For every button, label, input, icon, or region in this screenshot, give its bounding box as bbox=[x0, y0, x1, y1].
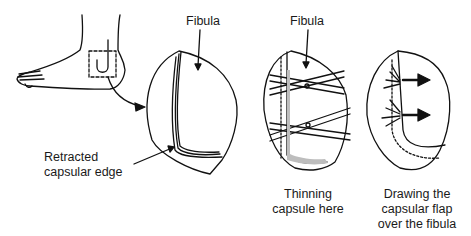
foot-illustration bbox=[17, 15, 140, 106]
retracted-line-2: capsular edge bbox=[44, 165, 123, 180]
arrow-head-icon bbox=[135, 103, 145, 111]
retracted-line-1: Retracted bbox=[44, 150, 123, 165]
panel-1-illustration bbox=[134, 30, 237, 174]
thinning-line-1: Thinning bbox=[268, 187, 348, 202]
thinning-label: Thinning capsule here bbox=[268, 187, 348, 217]
drawing-line-2: capsular flap bbox=[365, 202, 469, 217]
panel-2-illustration bbox=[264, 30, 350, 170]
drawing-label: Drawing the capsular flap over the fibul… bbox=[365, 187, 469, 232]
fibula-label-2: Fibula bbox=[290, 14, 324, 29]
drawing-line-1: Drawing the bbox=[365, 187, 469, 202]
retracted-label: Retracted capsular edge bbox=[44, 150, 123, 180]
panel-3-illustration bbox=[367, 51, 450, 170]
drawing-line-3: over the fibula bbox=[365, 217, 469, 232]
thinning-line-2: capsule here bbox=[268, 202, 348, 217]
fibula-label-1: Fibula bbox=[186, 14, 220, 29]
